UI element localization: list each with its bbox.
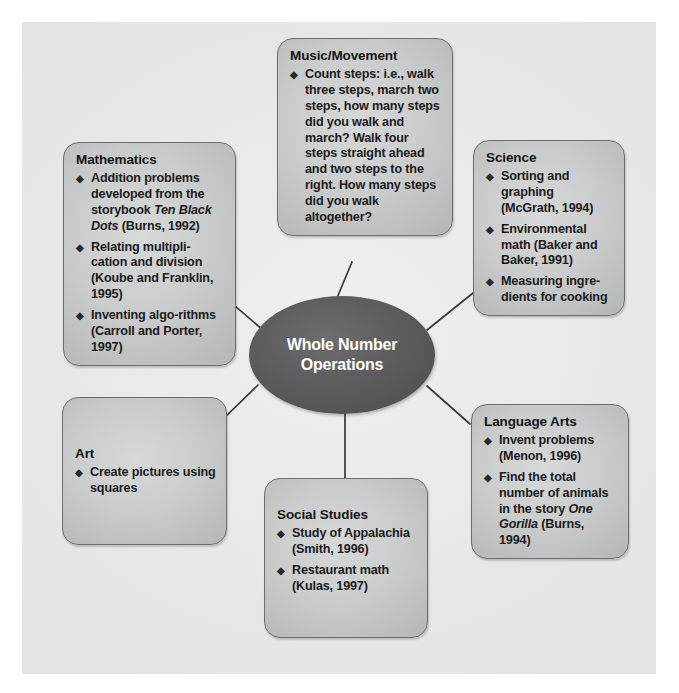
node-title-language-arts: Language Arts — [484, 414, 618, 430]
center-node-whole-number-operations[interactable]: Whole Number Operations — [249, 296, 435, 414]
diamond-bullet-icon: ◆ — [484, 433, 492, 449]
bullet-text: Create pictures using squares — [90, 465, 216, 495]
node-title-art: Art — [75, 446, 216, 462]
list-item: ◆ Environmental math (Baker and Baker, 1… — [486, 222, 614, 270]
list-item: ◆ Count steps: i.e., walk three steps, m… — [290, 67, 442, 226]
bullet-list-language-arts: ◆ Invent problems (Menon, 1996) ◆ Find t… — [484, 433, 618, 549]
bullet-text: Measuring ingre-dients for cooking — [501, 274, 607, 304]
diamond-bullet-icon: ◆ — [486, 169, 494, 185]
bullet-list-art: ◆ Create pictures using squares — [75, 465, 216, 497]
list-item: ◆ Create pictures using squares — [75, 465, 216, 497]
bullet-text: Relating multipli-cation and division (K… — [91, 240, 213, 302]
list-item: ◆ Addition problems developed from the s… — [76, 171, 225, 234]
list-item: ◆ Restaurant math (Kulas, 1997) — [277, 563, 417, 595]
diamond-bullet-icon: ◆ — [277, 526, 285, 542]
node-title-social-studies: Social Studies — [277, 507, 417, 523]
diamond-bullet-icon: ◆ — [76, 308, 84, 324]
diamond-bullet-icon: ◆ — [486, 274, 494, 290]
bullet-text: Inventing algo-rithms (Carroll and Porte… — [91, 308, 216, 354]
list-item: ◆ Find the total number of animals in th… — [484, 470, 618, 549]
diamond-bullet-icon: ◆ — [76, 171, 84, 187]
node-title-music-movement: Music/Movement — [290, 48, 442, 64]
diamond-bullet-icon: ◆ — [484, 470, 492, 486]
node-art[interactable]: Art ◆ Create pictures using squares — [62, 397, 227, 545]
bullet-text: Addition problems developed from the sto… — [91, 171, 212, 233]
center-node-label: Whole Number Operations — [287, 335, 398, 375]
node-title-mathematics: Mathematics — [76, 152, 225, 168]
bullet-text: Study of Appalachia (Smith, 1996) — [292, 526, 410, 556]
node-science[interactable]: Science ◆ Sorting and graphing (McGrath,… — [473, 140, 625, 316]
diamond-bullet-icon: ◆ — [75, 465, 83, 481]
node-title-science: Science — [486, 150, 614, 166]
node-language-arts[interactable]: Language Arts ◆ Invent problems (Menon, … — [471, 404, 629, 559]
bullet-list-mathematics: ◆ Addition problems developed from the s… — [76, 171, 225, 355]
concept-map-figure: Music/Movement ◆ Count steps: i.e., walk… — [0, 0, 679, 693]
bullet-list-science: ◆ Sorting and graphing (McGrath, 1994) ◆… — [486, 169, 614, 306]
list-item: ◆ Sorting and graphing (McGrath, 1994) — [486, 169, 614, 217]
list-item: ◆ Inventing algo-rithms (Carroll and Por… — [76, 308, 225, 356]
node-social-studies[interactable]: Social Studies ◆ Study of Appalachia (Sm… — [264, 478, 428, 638]
node-music-movement[interactable]: Music/Movement ◆ Count steps: i.e., walk… — [277, 38, 453, 236]
bullet-text: Invent problems (Menon, 1996) — [499, 433, 594, 463]
list-item: ◆ Invent problems (Menon, 1996) — [484, 433, 618, 465]
diamond-bullet-icon: ◆ — [290, 67, 298, 83]
list-item: ◆ Relating multipli-cation and division … — [76, 240, 225, 303]
node-mathematics[interactable]: Mathematics ◆ Addition problems develope… — [63, 142, 236, 366]
bullet-list-social-studies: ◆ Study of Appalachia (Smith, 1996) ◆ Re… — [277, 526, 417, 594]
bullet-list-music-movement: ◆ Count steps: i.e., walk three steps, m… — [290, 67, 442, 226]
list-item: ◆ Measuring ingre-dients for cooking — [486, 274, 614, 306]
list-item: ◆ Study of Appalachia (Smith, 1996) — [277, 526, 417, 558]
diamond-bullet-icon: ◆ — [76, 240, 84, 256]
bullet-text: Environmental math (Baker and Baker, 199… — [501, 222, 597, 268]
bullet-text: Find the total number of animals in the … — [499, 470, 608, 547]
bullet-text: Count steps: i.e., walk three steps, mar… — [305, 67, 440, 224]
diamond-bullet-icon: ◆ — [486, 222, 494, 238]
bullet-text: Sorting and graphing (McGrath, 1994) — [501, 169, 593, 215]
diamond-bullet-icon: ◆ — [277, 563, 285, 579]
bullet-text: Restaurant math (Kulas, 1997) — [292, 563, 389, 593]
